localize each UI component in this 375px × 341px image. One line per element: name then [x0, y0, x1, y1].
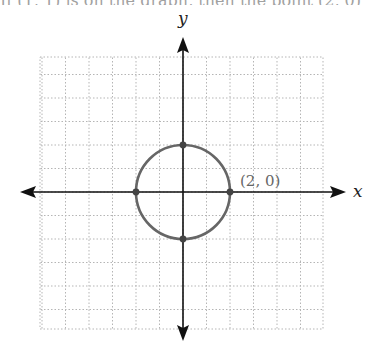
point-marker	[180, 236, 187, 243]
y-axis-label: y	[177, 8, 188, 28]
point-label-2-0: (2, 0)	[240, 172, 280, 190]
point-marker	[133, 189, 140, 196]
x-axis: x	[20, 181, 363, 201]
coordinate-plane: x y (2, 0)	[0, 0, 375, 341]
point-marker	[227, 189, 234, 196]
x-axis-label: x	[353, 181, 363, 201]
point-marker	[180, 142, 187, 149]
y-axis: y	[177, 8, 189, 341]
